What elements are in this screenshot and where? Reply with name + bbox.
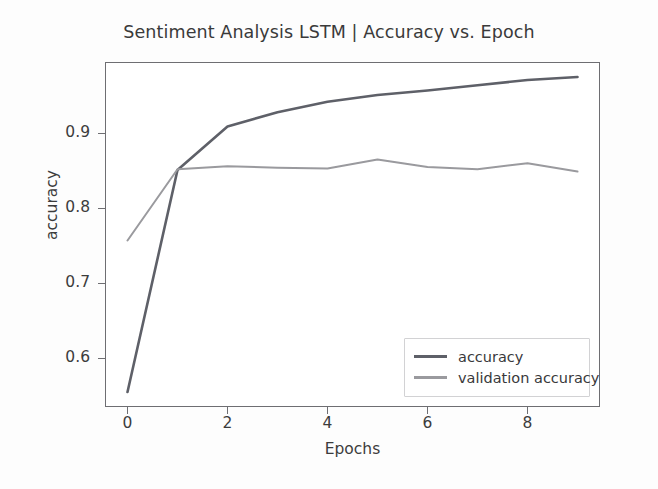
x-tick-mark: [127, 407, 128, 414]
legend-label-validation-accuracy: validation accuracy: [458, 370, 599, 386]
legend-swatch-validation-accuracy: [414, 376, 447, 379]
y-tick: 0.6: [38, 348, 90, 366]
x-tick-mark: [427, 407, 428, 414]
legend-item-validation-accuracy[interactable]: validation accuracy: [414, 367, 580, 388]
y-tick-mark: [98, 283, 105, 284]
y-axis-label: accuracy: [43, 145, 61, 265]
x-tick-label: 8: [508, 414, 548, 432]
legend-label-accuracy: accuracy: [458, 349, 523, 365]
y-tick: 0.9: [38, 123, 90, 141]
x-axis-label: Epochs: [105, 440, 600, 458]
chart-legend: accuracy validation accuracy: [404, 338, 590, 397]
x-tick-label: 0: [108, 414, 148, 432]
legend-swatch-accuracy: [414, 355, 447, 358]
series-line-validation-accuracy: [128, 160, 578, 241]
y-tick-mark: [98, 358, 105, 359]
chart-title: Sentiment Analysis LSTM | Accuracy vs. E…: [0, 22, 658, 42]
y-tick-mark: [98, 133, 105, 134]
y-tick-mark: [98, 208, 105, 209]
x-tick-mark: [227, 407, 228, 414]
x-tick-mark: [527, 407, 528, 414]
y-tick-label: 0.6: [46, 348, 90, 366]
chart-figure: Sentiment Analysis LSTM | Accuracy vs. E…: [0, 0, 658, 489]
y-tick: 0.7: [38, 273, 90, 291]
x-tick-label: 4: [308, 414, 348, 432]
legend-item-accuracy[interactable]: accuracy: [414, 346, 580, 367]
y-tick-label: 0.9: [46, 123, 90, 141]
x-tick-mark: [327, 407, 328, 414]
x-tick-label: 6: [408, 414, 448, 432]
x-tick-label: 2: [208, 414, 248, 432]
y-tick-label: 0.7: [46, 273, 90, 291]
